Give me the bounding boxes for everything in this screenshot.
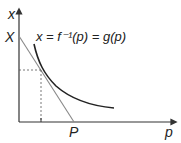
intercept-x-upper-label: X	[5, 29, 14, 45]
budget-line	[19, 36, 74, 122]
demand-curve	[34, 44, 114, 108]
curve-equation-label: x = f⁻¹(p) = g(p)	[36, 29, 126, 44]
diagram-canvas	[0, 0, 181, 143]
intercept-p-label: P	[69, 124, 78, 140]
y-axis-label: x	[8, 6, 15, 22]
x-axis-label: p	[165, 124, 173, 140]
